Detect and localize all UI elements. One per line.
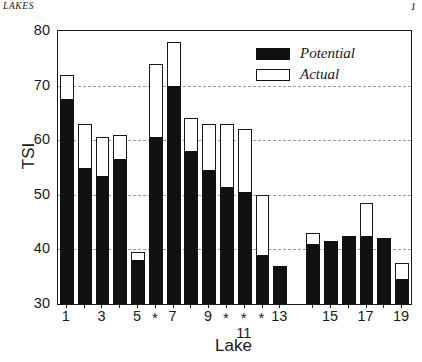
gridline-60 xyxy=(58,140,411,141)
legend-swatch-actual-icon xyxy=(256,69,290,81)
bar-potential xyxy=(60,99,74,304)
bar-potential xyxy=(360,236,374,304)
bar-group xyxy=(167,31,181,304)
bar-potential xyxy=(167,86,181,304)
bar-potential xyxy=(306,244,320,304)
bar-potential xyxy=(395,279,409,304)
bar-potential xyxy=(377,238,391,304)
running-head: LAKES 1 xyxy=(0,0,422,18)
x-tick-label-19: 19 xyxy=(388,308,414,324)
bar-potential xyxy=(256,255,270,304)
bar-group xyxy=(131,31,145,304)
figure-bar-chart: TSI Lake 304050607080 135*79**11*1315171… xyxy=(0,18,422,362)
bar-group xyxy=(60,31,74,304)
plot-area: Potential Actual xyxy=(57,30,412,305)
x-tick-label-3: 3 xyxy=(88,308,114,324)
y-tick-label-80: 80 xyxy=(6,22,50,38)
bar-potential xyxy=(149,137,163,304)
bar-potential xyxy=(113,159,127,304)
y-tick-label-50: 50 xyxy=(6,186,50,202)
x-tick-label-17: 17 xyxy=(353,308,379,324)
x-tick-label-15: 15 xyxy=(317,308,343,324)
bar-potential xyxy=(273,266,287,304)
chart-legend: Potential Actual xyxy=(256,45,380,89)
bar-group xyxy=(395,31,409,304)
bar-group xyxy=(220,31,234,304)
legend-swatch-potential-icon xyxy=(256,48,290,60)
gridline-40 xyxy=(58,249,411,250)
bar-potential xyxy=(324,241,338,304)
y-tick-label-70: 70 xyxy=(6,77,50,93)
bar-group xyxy=(238,31,252,304)
x-tick-label-1: 1 xyxy=(53,308,79,324)
bar-group xyxy=(96,31,110,304)
bar-group xyxy=(184,31,198,304)
bar-potential xyxy=(131,260,145,304)
y-tick-label-30: 30 xyxy=(6,295,50,311)
bar-potential xyxy=(220,187,234,304)
gridline-50 xyxy=(58,195,411,196)
page-number: 1 xyxy=(411,0,417,12)
bar-potential xyxy=(238,192,252,304)
legend-label-potential: Potential xyxy=(300,45,355,62)
bar-potential xyxy=(342,236,356,304)
bar-potential xyxy=(202,170,216,304)
x-tick-label-13: 13 xyxy=(266,308,292,324)
running-head-title: LAKES xyxy=(3,1,34,11)
bar-potential xyxy=(96,176,110,304)
legend-label-actual: Actual xyxy=(300,66,339,83)
bar-group xyxy=(202,31,216,304)
bar-group xyxy=(113,31,127,304)
bar-group xyxy=(78,31,92,304)
x-tick-label-11: 11 xyxy=(231,325,257,341)
bar-potential xyxy=(184,151,198,304)
x-tick-label-7: 7 xyxy=(160,308,186,324)
bar-potential xyxy=(78,168,92,305)
y-tick-label-60: 60 xyxy=(6,131,50,147)
bar-group xyxy=(149,31,163,304)
y-tick-label-40: 40 xyxy=(6,240,50,256)
